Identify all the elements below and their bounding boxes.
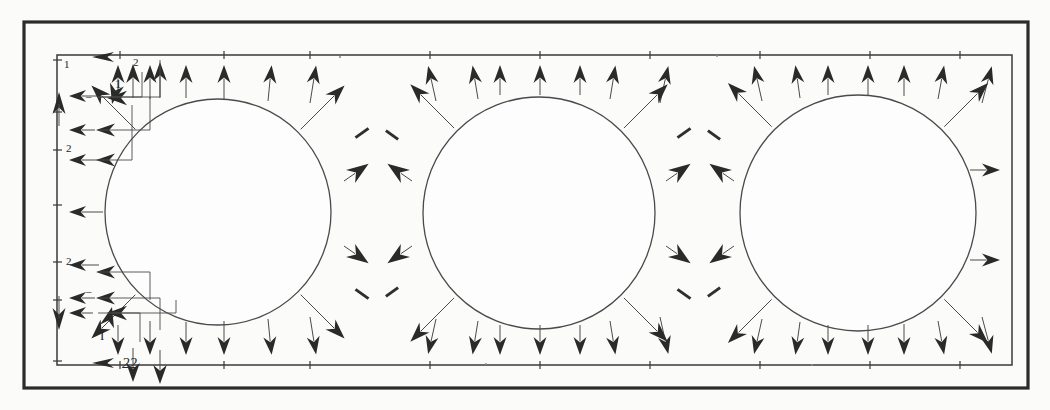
label-inner-1: 1 — [115, 76, 122, 91]
label-low-dash: – — [85, 285, 92, 297]
figure-root: 121–22–I22 — [0, 0, 1050, 410]
circle-middle — [423, 97, 655, 329]
label-bottom-22: 22 — [122, 355, 138, 371]
label-left-dash: – — [85, 90, 92, 102]
label-top-1: 1 — [64, 58, 70, 70]
label-left-low-2: 2 — [66, 255, 72, 267]
label-left-mid-2: 2 — [66, 142, 72, 154]
circle-right — [740, 95, 976, 331]
label-bottom-I: I — [100, 328, 104, 343]
circle-left — [105, 99, 331, 325]
label-top-2: 2 — [133, 56, 139, 68]
figure-canvas: 121–22–I22 — [0, 0, 1050, 410]
